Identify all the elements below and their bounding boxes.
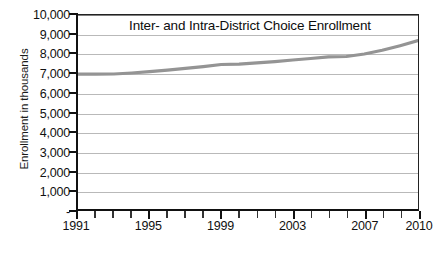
x-axis-tick-mark (275, 211, 277, 218)
y-axis-tick-label: 3,000 (4, 146, 70, 160)
x-axis-tick-label: 2010 (405, 219, 432, 233)
y-axis-tick-mark (69, 13, 78, 15)
y-axis-tick-labels: -1,0002,0003,0004,0005,0006,0007,0008,00… (4, 15, 70, 211)
chart-figure: Enrollment in thousands -1,0002,0003,000… (0, 0, 434, 253)
x-axis-tick-mark (166, 211, 168, 218)
y-axis-tick-label: 9,000 (4, 28, 70, 42)
y-axis-tick-mark (69, 171, 78, 173)
y-axis-tick-label: 6,000 (4, 87, 70, 101)
y-axis-tick-label: 2,000 (4, 166, 70, 180)
y-axis-tick-label: 5,000 (4, 107, 70, 121)
x-axis-tick-mark (202, 211, 204, 218)
x-axis-tick-labels: 199119951999200320072010 (0, 219, 434, 239)
x-axis-tick-mark (148, 211, 150, 219)
y-axis-tick-mark (69, 33, 78, 35)
x-axis-tick-mark (383, 211, 385, 218)
y-axis-tick-label: 4,000 (4, 126, 70, 140)
y-axis-tick-mark (69, 131, 78, 133)
x-axis-tick-mark (238, 211, 240, 218)
x-axis-tick-label: 1991 (62, 219, 89, 233)
x-axis-tick-mark (329, 211, 331, 218)
chart-title: Inter- and Intra-District Choice Enrollm… (102, 18, 398, 33)
y-axis-tick-mark (69, 92, 78, 94)
x-axis-tick-mark (401, 211, 403, 218)
x-axis-tick-mark (112, 211, 114, 218)
y-axis-tick-label: - (4, 205, 70, 219)
y-axis-tick-label: 10,000 (4, 8, 70, 22)
x-axis-tick-mark (184, 211, 186, 218)
plot-area: Inter- and Intra-District Choice Enrollm… (76, 14, 419, 211)
y-axis-tick-label: 8,000 (4, 47, 70, 61)
y-axis-tick-mark (69, 190, 78, 192)
x-axis-tick-mark (94, 211, 96, 218)
plot-inner (78, 15, 418, 209)
x-axis-tick-label: 1995 (135, 219, 162, 233)
x-axis-tick-mark (76, 211, 78, 219)
x-axis-tick-mark (293, 211, 295, 219)
x-axis-tick-mark (347, 211, 349, 218)
y-axis-tick-mark (69, 112, 78, 114)
x-axis-tick-mark (365, 211, 367, 219)
y-axis-tick-mark (69, 72, 78, 74)
x-axis-tick-mark (220, 211, 222, 219)
x-axis-tick-mark (257, 211, 259, 218)
y-axis-tick-mark (69, 151, 78, 153)
x-axis-tick-label: 2007 (351, 219, 378, 233)
line-series (78, 15, 418, 209)
x-axis-tick-mark (311, 211, 313, 218)
x-axis-tick-mark (419, 211, 421, 219)
x-axis-tick-label: 2003 (279, 219, 306, 233)
x-axis-tick-label: 1999 (207, 219, 234, 233)
y-axis-tick-mark (69, 52, 78, 54)
y-axis-tick-label: 7,000 (4, 67, 70, 81)
x-axis-tick-mark (130, 211, 132, 218)
y-axis-tick-label: 1,000 (4, 185, 70, 199)
